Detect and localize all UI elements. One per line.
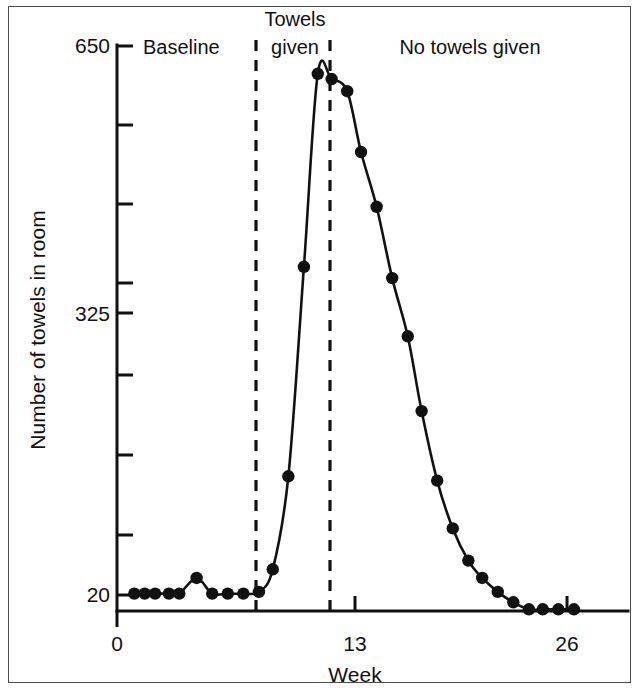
data-point xyxy=(267,563,279,575)
phase-labels: Baseline Towels given No towels given xyxy=(143,8,541,58)
data-point xyxy=(355,146,367,158)
series-line-towels xyxy=(134,61,574,610)
figure-root: 650 325 20 0 13 26 Number of towels in r… xyxy=(0,0,640,696)
data-point xyxy=(298,261,310,273)
data-point xyxy=(173,587,185,599)
data-point xyxy=(476,572,488,584)
data-point xyxy=(552,603,564,615)
data-point xyxy=(523,603,535,615)
data-point xyxy=(312,68,324,80)
data-series-group xyxy=(128,61,580,616)
data-point xyxy=(402,330,414,342)
y-tick-label-650: 650 xyxy=(75,34,110,57)
y-tick-marks xyxy=(117,46,133,595)
y-tick-label-20: 20 xyxy=(87,583,110,606)
data-point xyxy=(325,73,337,85)
data-point xyxy=(492,586,504,598)
axis-group xyxy=(117,45,628,611)
x-tick-label-26: 26 xyxy=(555,632,578,655)
x-tick-label-13: 13 xyxy=(343,632,366,655)
y-axis-title: Number of towels in room xyxy=(26,210,49,449)
data-point xyxy=(149,587,161,599)
data-point xyxy=(370,201,382,213)
phase-label-no-towels-given: No towels given xyxy=(399,36,540,58)
data-point xyxy=(431,474,443,486)
y-tick-label-325: 325 xyxy=(75,302,110,325)
data-point xyxy=(415,405,427,417)
data-point xyxy=(507,596,519,608)
data-point xyxy=(568,603,580,615)
x-axis-title: Week xyxy=(328,663,382,686)
towels-in-room-line-chart: 650 325 20 0 13 26 Number of towels in r… xyxy=(0,0,640,696)
phase-dividers xyxy=(256,40,330,611)
data-point xyxy=(447,522,459,534)
phase-label-towels-given-line1: Towels xyxy=(264,8,325,30)
phase-label-towels-given-line2: given xyxy=(271,36,319,58)
data-point xyxy=(190,572,202,584)
data-point xyxy=(237,587,249,599)
series-markers xyxy=(128,68,580,616)
phase-label-baseline: Baseline xyxy=(143,36,220,58)
data-point xyxy=(386,272,398,284)
x-tick-label-0: 0 xyxy=(111,632,123,655)
data-point xyxy=(282,470,294,482)
data-point xyxy=(341,85,353,97)
data-point xyxy=(462,554,474,566)
data-point xyxy=(253,586,265,598)
data-point xyxy=(537,603,549,615)
y-tick-labels: 650 325 20 xyxy=(75,34,110,606)
data-point xyxy=(206,587,218,599)
data-point xyxy=(222,587,234,599)
x-tick-labels: 0 13 26 xyxy=(111,632,579,655)
